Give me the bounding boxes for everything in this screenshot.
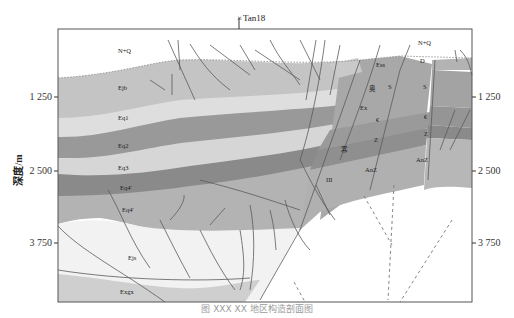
label-eq1: Eq1 <box>118 114 128 121</box>
label-nq-left: N+Q <box>118 47 131 54</box>
label-eq4-upper: Eq4' <box>120 184 132 191</box>
label-exgx: Exgx <box>120 288 134 295</box>
left-tick-3750: 3 750 <box>30 237 53 248</box>
left-tick-1250: 1 250 <box>30 91 53 102</box>
label-s-west: S <box>388 83 392 90</box>
label-nq-right: N+Q <box>418 39 431 46</box>
svg-text:×: × <box>237 13 242 23</box>
label-eq3: Eq3 <box>118 164 128 171</box>
block-east-d <box>432 58 472 70</box>
block-east-s <box>430 70 472 108</box>
label-ejb: Ejb <box>118 84 127 91</box>
well-label: Tan18 <box>243 13 266 23</box>
figure-caption: 图 XXX XX 地区构造剖面图 <box>0 302 514 315</box>
label-z-east: Z <box>424 130 428 137</box>
label-eq4-lower: Eq4' <box>122 206 134 213</box>
right-tick-1250: 1 250 <box>478 91 501 102</box>
right-tick-3750: 3 750 <box>478 237 501 248</box>
label-ex: Ex <box>360 104 368 111</box>
label-eq2: Eq2 <box>118 142 128 149</box>
block-east-anz <box>424 138 472 190</box>
cross-section: × Tan18 1 250 2 500 3 750 1 250 2 500 3 … <box>0 0 514 318</box>
label-ejs: Ejs <box>128 254 137 261</box>
right-tick-2500: 2 500 <box>478 165 501 176</box>
label-z-west: Z <box>374 136 378 143</box>
left-tick-2500: 2 500 <box>30 165 53 176</box>
label-roman: III <box>326 176 333 183</box>
label-anz-east: AnZ <box>416 156 428 163</box>
label-d: D <box>420 57 425 64</box>
block-east-cam <box>428 106 472 128</box>
label-ess: Ess <box>376 61 386 68</box>
label-s-east: S <box>423 83 427 90</box>
y-axis-label: 深度/m <box>12 154 24 186</box>
label-anz-west: AnZ <box>365 166 377 173</box>
label-ord2: 寒 <box>341 145 348 154</box>
label-ord: 奥 <box>369 84 376 93</box>
